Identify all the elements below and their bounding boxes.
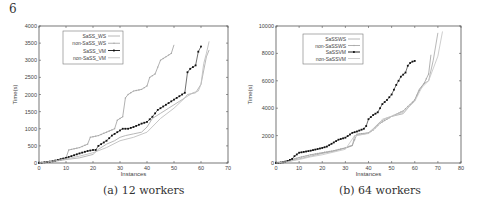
legend-entry-label: non-SaSSVM (316, 56, 346, 62)
y-tick-label: 2000 (262, 133, 274, 139)
y-tick-label: 0 (271, 160, 274, 166)
legend-entry-label: SaSSVM (326, 49, 346, 55)
y-tick-label: 6000 (262, 78, 274, 84)
x-tick-label: 0 (274, 165, 277, 171)
x-tick-label: 10 (296, 165, 302, 171)
y-tick-label: 10000 (259, 23, 274, 29)
legend-entry-label: SaSSWS (325, 36, 347, 42)
y-tick-label: 8000 (262, 50, 274, 56)
x-tick-label: 80 (458, 165, 464, 171)
x-tick-label: 70 (435, 165, 441, 171)
chart-svg: 010203040506070800200040006000800010000I… (0, 0, 480, 208)
y-tick-label: 4000 (262, 105, 274, 111)
x-axis-label: Instances (356, 171, 382, 177)
caption-64-workers: (b) 64 workers (339, 184, 421, 197)
x-tick-label: 50 (389, 165, 395, 171)
x-tick-label: 20 (319, 165, 325, 171)
legend-entry-label: non-SaSSWS (315, 43, 347, 49)
y-axis-label: Time(s) (247, 84, 253, 104)
x-tick-label: 60 (412, 165, 418, 171)
chart-64-workers: 010203040506070800200040006000800010000I… (0, 0, 480, 208)
x-tick-label: 30 (342, 165, 348, 171)
caption-12-workers: (a) 12 workers (103, 184, 185, 197)
